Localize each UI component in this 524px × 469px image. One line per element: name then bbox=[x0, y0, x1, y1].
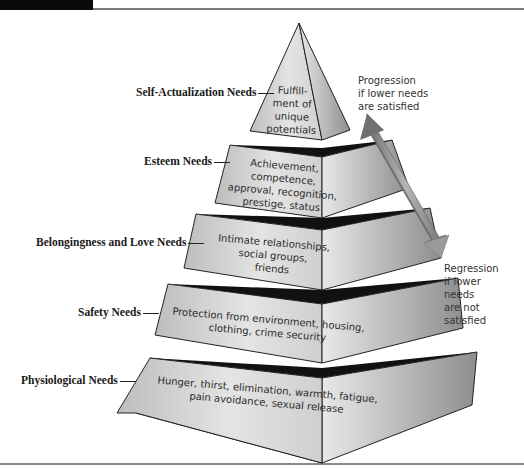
label-safety: Safety Needs bbox=[78, 306, 159, 318]
label-physiological: Physiological Needs bbox=[21, 374, 136, 386]
desc-esteem: Achievement, competence, approval, recog… bbox=[226, 154, 340, 215]
progression-note: Progression if lower needs are satisfied bbox=[358, 74, 428, 113]
regression-note: Regression if lower needs are not satisf… bbox=[444, 262, 499, 327]
label-esteem: Esteem Needs bbox=[144, 155, 230, 167]
leader-line bbox=[188, 243, 204, 244]
leader-line bbox=[214, 162, 230, 163]
label-belongingness: Belongingness and Love Needs bbox=[36, 236, 204, 248]
label-self-actualization: Self-Actualization Needs bbox=[136, 86, 274, 98]
leader-line bbox=[143, 313, 159, 314]
leader-line bbox=[120, 381, 136, 382]
desc-self-actualization: Fulfill- ment of unique potentials bbox=[261, 83, 323, 137]
